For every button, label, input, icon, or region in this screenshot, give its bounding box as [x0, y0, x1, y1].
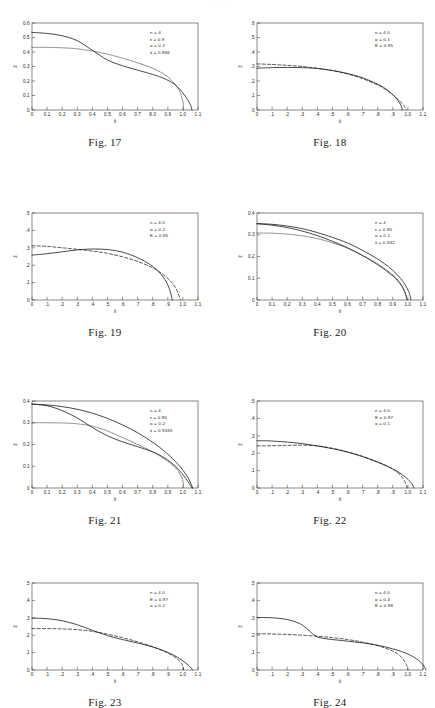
figure-caption: Fig. 20 [231, 326, 429, 338]
x-tick-label: .4 [315, 490, 319, 495]
x-tick-label: 1.1 [420, 302, 427, 307]
x-axis-title: x̄ [339, 496, 342, 502]
x-tick-label: 0.9 [164, 490, 171, 495]
x-tick-label: .6 [345, 112, 349, 117]
y-tick-label: .1 [251, 650, 255, 655]
curve-solid [257, 617, 426, 670]
y-axis-title: z̄ [12, 255, 18, 258]
x-tick-label: .6 [345, 490, 349, 495]
y-tick-label: .3 [251, 616, 255, 621]
x-tick-label: 1.0 [404, 112, 411, 117]
x-tick-label: .9 [391, 112, 395, 117]
plot-frame [257, 583, 423, 670]
figure-caption: Fig. 24 [231, 696, 429, 708]
x-tick-label: .1 [270, 490, 274, 495]
x-tick-label: .4 [90, 672, 94, 677]
legend-annotation: E = 0.97 [375, 415, 393, 420]
x-tick-label: .8 [151, 302, 155, 307]
y-tick-label: .3 [251, 64, 255, 69]
x-tick-label: 0.2 [284, 302, 291, 307]
figure-caption: Fig. 23 [6, 696, 204, 708]
x-tick-label: 0.1 [44, 112, 51, 117]
plot-fig21: 00.10.20.30.40.50.60.70.80.91.01.100.10.… [6, 392, 204, 510]
y-tick-label: .5 [26, 581, 30, 586]
y-tick-label: 0 [27, 486, 30, 491]
legend-annotation: ε = 0.95 [375, 227, 392, 232]
y-tick-label: 0.3 [23, 420, 30, 425]
y-tick-label: 0.1 [23, 93, 30, 98]
x-tick-label: 0.6 [119, 490, 126, 495]
y-tick-label: .4 [251, 50, 255, 55]
y-tick-label: 0.2 [23, 442, 30, 447]
legend-annotation: E = 0.98 [375, 603, 393, 608]
figure-cell-fig24: 0.1.2.3.4.5.6.7.8.91.01.10.1.2.3.4.5x̄z̄… [231, 574, 429, 692]
legend-annotation: n = 4 [375, 220, 386, 225]
plot-frame [257, 401, 423, 488]
x-tick-label: .5 [330, 490, 334, 495]
x-tick-label: .9 [166, 672, 170, 677]
x-axis-title: x̄ [339, 118, 342, 124]
figure-cell-fig22: 0.1.2.3.4.5.6.7.8.91.01.10.1.2.3.4.5x̄z̄… [231, 392, 429, 510]
plot-frame [32, 23, 198, 110]
x-tick-label: 1.1 [195, 672, 202, 677]
y-tick-label: .6 [251, 21, 255, 26]
x-tick-label: 1.0 [404, 672, 411, 677]
y-tick-label: 0 [252, 668, 255, 673]
y-tick-label: .4 [251, 598, 255, 603]
y-axis-title: z̄ [12, 625, 18, 628]
y-tick-label: 0.1 [23, 464, 30, 469]
x-tick-label: 0.1 [269, 302, 276, 307]
x-tick-label: 0.1 [44, 490, 51, 495]
legend-annotation: α = 0.1 [375, 37, 390, 42]
x-tick-label: 0.5 [329, 302, 336, 307]
curve-solid [32, 618, 193, 670]
x-tick-label: 0.7 [134, 490, 141, 495]
y-tick-label: 0.3 [248, 232, 255, 237]
curve-dashed [32, 629, 184, 670]
x-tick-label: .6 [120, 672, 124, 677]
y-tick-label: .3 [26, 246, 30, 251]
x-tick-label: .4 [315, 112, 319, 117]
legend-annotation: n = 4.0 [375, 408, 390, 413]
legend-annotation: α = 0.1 [375, 421, 390, 426]
y-tick-label: .1 [251, 93, 255, 98]
x-tick-label: 0 [31, 490, 34, 495]
x-tick-label: 0.6 [344, 302, 351, 307]
x-tick-label: .3 [300, 490, 304, 495]
legend-annotation: α = 0.1 [375, 233, 390, 238]
x-tick-label: .5 [105, 302, 109, 307]
x-tick-label: .6 [120, 302, 124, 307]
plot-svg-fig24: 0.1.2.3.4.5.6.7.8.91.01.10.1.2.3.4.5x̄z̄… [231, 574, 429, 692]
x-axis-title: x̄ [114, 496, 117, 502]
figure-cell-fig21: 00.10.20.30.40.50.60.70.80.91.01.100.10.… [6, 392, 204, 510]
x-axis-title: x̄ [339, 678, 342, 684]
plot-svg-fig23: 0.1.2.3.4.5.6.7.8.91.01.10.1.2.3.4.5x̄z̄… [6, 574, 204, 692]
x-tick-label: .9 [391, 490, 395, 495]
y-tick-label: .1 [251, 468, 255, 473]
x-tick-label: 1.0 [179, 112, 186, 117]
x-tick-label: .9 [391, 672, 395, 677]
running-head: · · · [60, 1, 380, 10]
legend-annotation: n = 4.0 [375, 30, 390, 35]
figure-cell-fig19: 0.1.2.3.4.5.6.7.8.91.01.10.1.2.3.4.5x̄z̄… [6, 204, 204, 322]
x-tick-label: 1.0 [404, 302, 411, 307]
plot-svg-fig18: 0.1.2.3.4.5.6.7.8.91.01.10.1.2.3.4.5.6x̄… [231, 14, 429, 132]
plot-fig20: 00.10.20.30.40.50.60.70.80.91.01.100.10.… [231, 204, 429, 322]
plot-frame [257, 213, 423, 300]
figure-caption: Fig. 21 [6, 514, 204, 526]
legend-annotation: n = 4 [150, 30, 161, 35]
x-tick-label: .5 [330, 112, 334, 117]
y-tick-label: 0 [252, 108, 255, 113]
y-tick-label: .5 [251, 35, 255, 40]
legend-annotation: α = 0.4 [375, 597, 390, 602]
x-tick-label: .3 [300, 112, 304, 117]
x-tick-label: 0 [31, 302, 34, 307]
x-tick-label: 0.2 [59, 490, 66, 495]
x-tick-label: .2 [285, 672, 289, 677]
curve-solid [257, 67, 402, 110]
x-tick-label: .1 [270, 672, 274, 677]
figure-caption: Fig. 17 [6, 136, 204, 148]
x-tick-label: 1.1 [420, 112, 427, 117]
x-tick-label: .5 [105, 672, 109, 677]
